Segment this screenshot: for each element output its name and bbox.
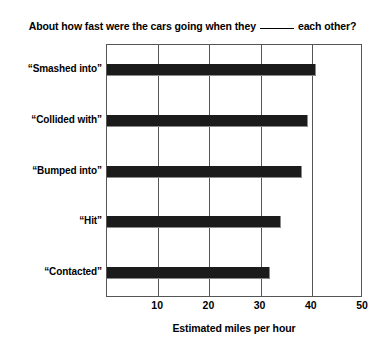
y-axis-category-labels: “Smashed into”“Collided with”“Bumped int… bbox=[0, 44, 102, 297]
y-axis-label: “Collided with” bbox=[2, 114, 102, 125]
chart-title-prefix: About how fast were the cars going when … bbox=[29, 20, 256, 32]
chart-title-blank bbox=[260, 19, 294, 29]
bar bbox=[107, 166, 302, 178]
x-axis-tick-label: 30 bbox=[245, 299, 275, 311]
bar bbox=[107, 267, 270, 279]
x-axis-tick-label: 50 bbox=[347, 299, 377, 311]
y-axis-label: “Bumped into” bbox=[2, 165, 102, 176]
x-axis-tick-labels: 1020304050 bbox=[0, 299, 385, 315]
x-axis-tick-label: 10 bbox=[142, 299, 172, 311]
x-axis-title: Estimated miles per hour bbox=[106, 322, 362, 334]
plot-area bbox=[106, 44, 362, 297]
y-axis-label: “Contacted” bbox=[2, 266, 102, 277]
y-axis-label: “Smashed into” bbox=[2, 63, 102, 74]
bar bbox=[107, 216, 281, 228]
x-axis-tick-label: 20 bbox=[193, 299, 223, 311]
bar bbox=[107, 64, 316, 76]
chart-title: About how fast were the cars going when … bbox=[0, 19, 385, 32]
gridline bbox=[312, 45, 313, 296]
bar-chart-figure: About how fast were the cars going when … bbox=[0, 0, 385, 355]
x-axis-tick-label: 40 bbox=[296, 299, 326, 311]
bar bbox=[107, 115, 308, 127]
chart-title-suffix: each other? bbox=[298, 20, 356, 32]
y-axis-label: “Hit” bbox=[2, 215, 102, 226]
